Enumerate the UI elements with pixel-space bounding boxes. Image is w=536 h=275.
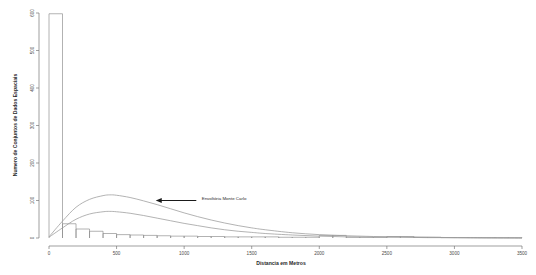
x-tick-label: 3500 [517,251,528,256]
histogram-bar [279,237,293,238]
y-axis-title: Numero de Conjuntos de Dados Espaciais [12,74,18,177]
histogram-bar [90,231,104,238]
histogram-bar [198,237,212,239]
y-tick-label: 0 [30,236,35,239]
histogram-bar [171,236,185,238]
envelope-curves-layer [49,195,522,238]
histogram-bars-layer [49,14,522,238]
histogram-bar [265,237,279,238]
histogram-bar [49,14,63,238]
y-tick-label: 500 [30,46,35,54]
histogram-bar [130,235,144,238]
y-tick-label: 400 [30,84,35,92]
y-tick-label: 600 [30,9,35,17]
x-tick-label: 0 [48,251,51,256]
histogram-bar [103,234,117,239]
histogram-bar [144,235,158,238]
x-tick-label: 1000 [179,251,190,256]
x-axis-title: Distancia em Metros [256,260,306,266]
histogram-bar [76,229,90,238]
histogram-bar [238,237,252,238]
x-tick-label: 1500 [247,251,258,256]
histogram-bar [252,237,266,238]
annotation-layer: Envoltória Monte Carlo [156,196,247,203]
histogram-bar [211,237,225,239]
envelope-curve [49,211,522,238]
axes-layer: 0500100015002000250030003500010020030040… [30,9,528,256]
y-tick-label: 200 [30,159,35,167]
x-tick-label: 500 [113,251,121,256]
plot-canvas: 0500100015002000250030003500010020030040… [0,0,536,275]
envelope-curve [49,195,522,238]
histogram-bar [225,237,239,238]
annotation-label: Envoltória Monte Carlo [202,196,247,201]
x-tick-label: 2500 [382,251,393,256]
annotation-arrow-head [156,198,162,203]
y-tick-label: 300 [30,121,35,129]
y-tick-label: 100 [30,196,35,204]
histogram-bar [117,235,131,238]
x-tick-label: 3000 [449,251,460,256]
histogram-bar [157,236,171,238]
histogram-bar [184,236,198,238]
histogram-bar [63,224,77,238]
x-tick-label: 2000 [314,251,325,256]
histogram-figure: 0500100015002000250030003500010020030040… [0,0,536,275]
histogram-bar [306,237,320,238]
histogram-bar [292,237,306,238]
